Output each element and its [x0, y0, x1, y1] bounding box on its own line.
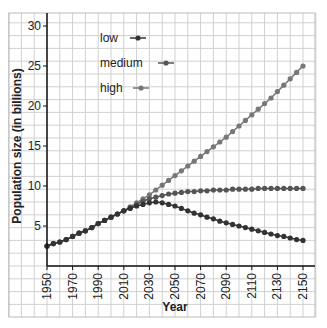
- data-point: [275, 89, 280, 94]
- legend-label: high: [100, 81, 123, 95]
- data-point: [64, 237, 69, 242]
- data-point: [134, 203, 139, 208]
- data-point: [115, 211, 120, 216]
- y-axis-title: Population size (in billions): [10, 68, 24, 223]
- data-point: [70, 234, 75, 239]
- data-point: [179, 168, 184, 173]
- data-point: [243, 225, 248, 230]
- data-point: [204, 215, 209, 220]
- data-point: [217, 139, 222, 144]
- data-point: [128, 206, 133, 211]
- y-ticks: 51015202530: [28, 19, 47, 233]
- data-point: [198, 212, 203, 217]
- data-point: [89, 225, 94, 230]
- data-point: [166, 178, 171, 183]
- data-point: [172, 191, 177, 196]
- data-point: [166, 202, 171, 207]
- data-point: [160, 200, 165, 205]
- data-point: [217, 219, 222, 224]
- legend-marker-icon: [163, 60, 168, 65]
- data-point: [236, 223, 241, 228]
- data-point: [243, 118, 248, 123]
- data-point: [211, 187, 216, 192]
- data-point: [230, 187, 235, 192]
- legend-item-high: high: [100, 81, 149, 95]
- y-tick-label: 10: [28, 179, 42, 193]
- y-tick-label: 20: [28, 99, 42, 113]
- data-point: [57, 239, 62, 244]
- data-point: [288, 235, 293, 240]
- legend-marker-icon: [138, 85, 143, 90]
- data-point: [294, 237, 299, 242]
- data-point: [198, 188, 203, 193]
- data-point: [300, 186, 305, 191]
- data-point: [256, 228, 261, 233]
- data-point: [76, 231, 81, 236]
- x-tick-label: 2050: [168, 273, 182, 300]
- x-tick-label: 1950: [40, 273, 54, 300]
- data-point: [172, 203, 177, 208]
- data-point: [192, 159, 197, 164]
- data-point: [243, 187, 248, 192]
- background-grid: [9, 13, 316, 317]
- data-point: [268, 95, 273, 100]
- data-point: [147, 200, 152, 205]
- y-tick-label: 25: [28, 59, 42, 73]
- x-tick-label: 2150: [296, 273, 310, 300]
- data-point: [211, 216, 216, 221]
- data-point: [294, 70, 299, 75]
- x-tick-label: 1990: [91, 273, 105, 300]
- data-point: [153, 195, 158, 200]
- y-tick-label: 30: [28, 19, 42, 33]
- data-point: [204, 149, 209, 154]
- x-tick-label: 2070: [194, 273, 208, 300]
- data-point: [230, 222, 235, 227]
- data-point: [185, 163, 190, 168]
- data-point: [179, 206, 184, 211]
- x-tick-label: 2130: [270, 273, 284, 300]
- x-tick-label: 2010: [117, 273, 131, 300]
- data-point: [192, 189, 197, 194]
- data-point: [51, 241, 56, 246]
- data-point: [262, 101, 267, 106]
- data-point: [281, 186, 286, 191]
- data-point: [198, 154, 203, 159]
- data-point: [249, 227, 254, 232]
- data-point: [102, 218, 107, 223]
- data-point: [300, 63, 305, 68]
- data-point: [236, 187, 241, 192]
- x-tick-label: 1970: [66, 273, 80, 300]
- data-point: [211, 144, 216, 149]
- y-tick-label: 5: [34, 219, 41, 233]
- data-point: [204, 188, 209, 193]
- x-tick-label: 2110: [245, 273, 259, 299]
- data-point: [288, 76, 293, 81]
- legend-label: medium: [100, 56, 143, 70]
- data-point: [256, 107, 261, 112]
- data-point: [224, 187, 229, 192]
- data-point: [96, 221, 101, 226]
- legend-item-medium: medium: [100, 56, 174, 70]
- data-point: [256, 186, 261, 191]
- data-point: [172, 173, 177, 178]
- data-point: [217, 187, 222, 192]
- data-point: [185, 189, 190, 194]
- data-point: [83, 228, 88, 233]
- data-point: [192, 211, 197, 216]
- data-point: [262, 186, 267, 191]
- data-point: [179, 190, 184, 195]
- data-point: [230, 129, 235, 134]
- x-tick-label: 2030: [142, 273, 156, 300]
- data-point: [160, 193, 165, 198]
- data-point: [275, 186, 280, 191]
- data-point: [224, 135, 229, 140]
- data-point: [166, 191, 171, 196]
- data-point: [275, 233, 280, 238]
- y-tick-label: 15: [28, 139, 42, 153]
- data-point: [300, 238, 305, 243]
- data-point: [294, 186, 299, 191]
- data-point: [160, 183, 165, 188]
- data-point: [224, 220, 229, 225]
- data-point: [268, 186, 273, 191]
- data-point: [281, 234, 286, 239]
